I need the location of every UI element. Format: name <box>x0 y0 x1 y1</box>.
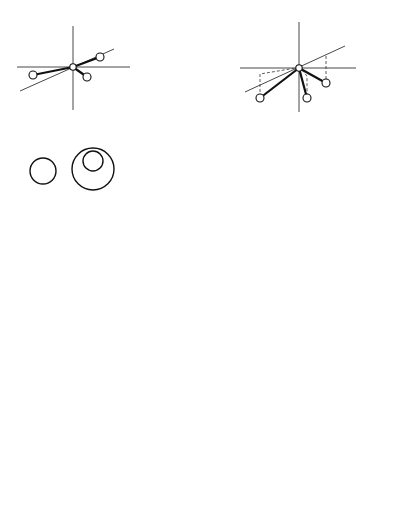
h-atom <box>303 94 311 102</box>
planar-s-overlap <box>30 148 114 190</box>
h-atom <box>83 73 91 81</box>
orbital-overlap-diagram <box>0 0 419 517</box>
pyramidal-axes <box>240 22 356 112</box>
h-atom <box>29 71 37 79</box>
n-atom <box>296 65 302 71</box>
h-atom <box>96 53 104 61</box>
b-atom <box>70 64 76 70</box>
h-atom <box>256 94 264 102</box>
planar-axes <box>17 26 130 110</box>
h-atom <box>322 79 330 87</box>
